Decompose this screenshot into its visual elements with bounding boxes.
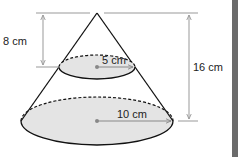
label-5cm: 5 cm [102,54,126,66]
side-bar [232,0,238,157]
label-16cm: 16 cm [193,61,223,73]
label-8cm: 8 cm [3,35,27,47]
cone-diagram: 8 cm 16 cm 5 cm 10 cm [0,0,238,157]
label-10cm: 10 cm [117,108,147,120]
